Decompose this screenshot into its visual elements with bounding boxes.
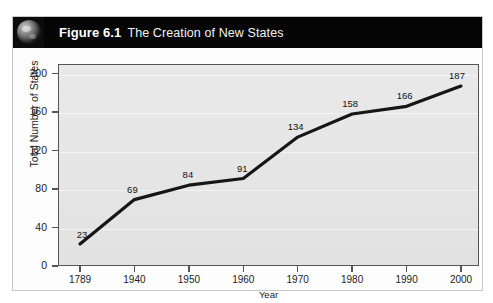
x-tick-label: 1980 bbox=[341, 274, 363, 285]
x-tick-label: 1970 bbox=[287, 274, 309, 285]
y-tick-mark bbox=[52, 111, 58, 113]
x-axis-title: Year bbox=[58, 289, 479, 300]
x-tick-mark bbox=[406, 266, 408, 272]
data-point-label: 69 bbox=[127, 184, 138, 195]
data-line bbox=[80, 86, 461, 244]
y-tick-label: 120 bbox=[13, 144, 47, 156]
globe-highlight-b bbox=[29, 34, 36, 39]
y-tick-mark bbox=[52, 188, 58, 190]
globe-sphere bbox=[17, 20, 41, 44]
y-tick-label: 0 bbox=[13, 259, 47, 271]
y-tick-mark bbox=[52, 73, 58, 75]
y-tick-label: 40 bbox=[13, 221, 47, 233]
figure-caption: The Creation of New States bbox=[127, 26, 283, 40]
data-point-label: 134 bbox=[288, 121, 304, 132]
figure-title: Figure 6.1 The Creation of New States bbox=[44, 25, 284, 40]
x-tick-label: 1789 bbox=[69, 274, 91, 285]
x-tick-label: 1940 bbox=[123, 274, 145, 285]
x-tick-mark bbox=[297, 266, 299, 272]
data-point-label: 23 bbox=[77, 229, 88, 240]
x-tick-mark bbox=[243, 266, 245, 272]
x-tick-mark bbox=[79, 266, 81, 272]
x-tick-mark bbox=[460, 266, 462, 272]
chart-region: Total Number of States Year 040801201602… bbox=[13, 48, 482, 290]
x-tick-mark bbox=[351, 266, 353, 272]
y-tick-label: 80 bbox=[13, 182, 47, 194]
x-tick-mark bbox=[188, 266, 190, 272]
data-point-label: 158 bbox=[342, 98, 358, 109]
y-tick-mark bbox=[52, 265, 58, 267]
data-point-label: 166 bbox=[397, 90, 413, 101]
line-series-layer bbox=[58, 64, 479, 266]
data-point-label: 91 bbox=[237, 163, 248, 174]
x-tick-label: 1960 bbox=[232, 274, 254, 285]
figure-number: Figure 6.1 bbox=[59, 25, 121, 40]
y-tick-label: 200 bbox=[13, 67, 47, 79]
x-tick-label: 1950 bbox=[178, 274, 200, 285]
x-tick-label: 1990 bbox=[395, 274, 417, 285]
y-tick-mark bbox=[52, 227, 58, 229]
data-point-label: 187 bbox=[449, 70, 465, 81]
y-tick-mark bbox=[52, 150, 58, 152]
x-tick-mark bbox=[134, 266, 136, 272]
figure-header-bar: Figure 6.1 The Creation of New States bbox=[13, 17, 482, 48]
data-point-label: 84 bbox=[183, 169, 194, 180]
x-tick-label: 2000 bbox=[450, 274, 472, 285]
figure-container: Figure 6.1 The Creation of New States To… bbox=[12, 16, 483, 291]
y-tick-label: 160 bbox=[13, 105, 47, 117]
